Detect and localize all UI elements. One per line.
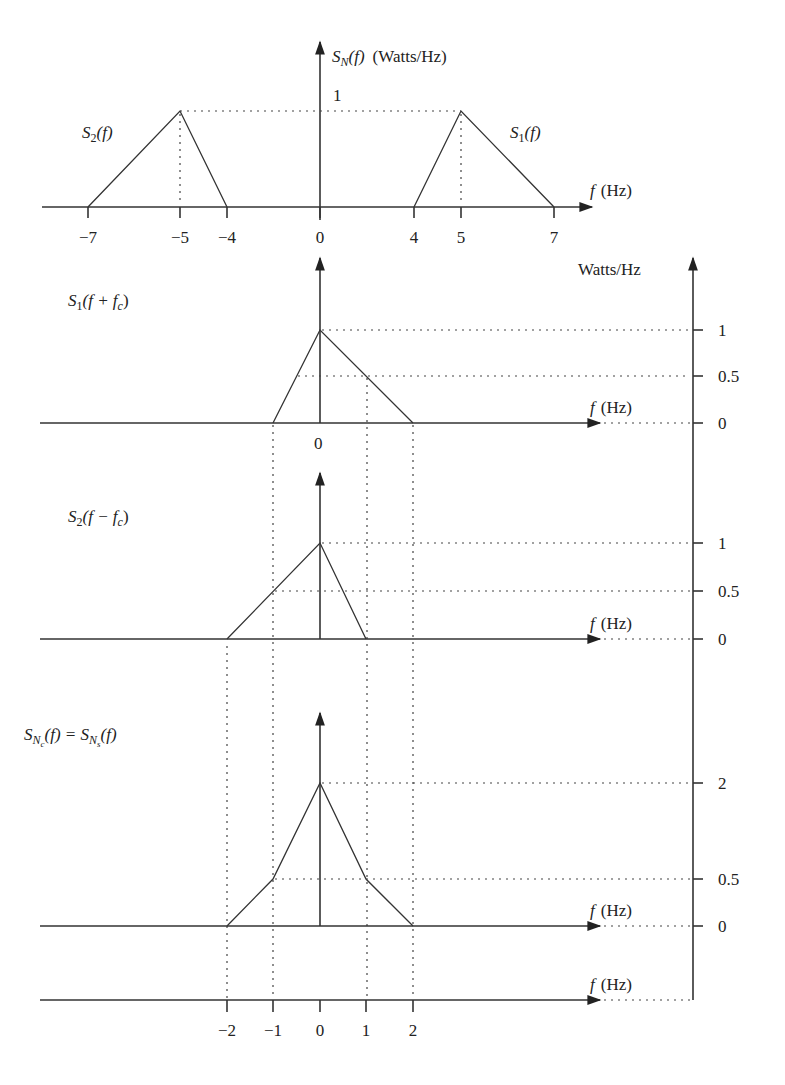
svg-text:5: 5 [457, 228, 466, 247]
plot3-x-axis-label: f(Hz) [590, 614, 632, 633]
plot-snc-sns: 2 0.5 0 SNc(f) = SNs(f) f(Hz) [24, 713, 739, 936]
s2-label: S2(f) [82, 123, 113, 145]
right-y-axis: Watts/Hz [578, 258, 693, 1000]
top-plot: SN(f)(Watts/Hz) 1 S2(f) S1(f) f(Hz) −7 −… [42, 42, 632, 247]
s1-label: S1(f) [510, 123, 541, 145]
plot2-ytick-1: 1 [718, 321, 727, 340]
bottom-axis: −2 −1 0 1 2 f(Hz) [40, 975, 690, 1040]
plot2-origin-label: 0 [314, 434, 323, 453]
s1-shifted-curve [273, 330, 413, 423]
top-x-tick-labels: −7 −5 −4 0 4 5 7 [79, 228, 559, 247]
top-x-ticks [88, 207, 554, 218]
svg-text:−7: −7 [79, 228, 98, 247]
plot3-ytick-0: 0 [718, 630, 727, 649]
plot4-title: SNc(f) = SNs(f) [24, 725, 117, 749]
top-x-axis-label: f(Hz) [590, 181, 632, 200]
bottom-xtick-minus1: −1 [264, 1021, 282, 1040]
bottom-xtick-1: 1 [362, 1021, 371, 1040]
diagram-canvas: SN(f)(Watts/Hz) 1 S2(f) S1(f) f(Hz) −7 −… [0, 0, 785, 1085]
plot2-ytick-0.5: 0.5 [718, 367, 739, 386]
svg-text:4: 4 [410, 228, 419, 247]
svg-text:−5: −5 [171, 228, 189, 247]
svg-text:0: 0 [316, 228, 325, 247]
plot4-x-axis-label: f(Hz) [590, 901, 632, 920]
bottom-xtick-2: 2 [409, 1021, 418, 1040]
plot2-title: S1(f + fc) [68, 291, 129, 313]
bottom-xtick-minus2: −2 [218, 1021, 236, 1040]
plot-s1-shifted: 1 0.5 0 0 S1(f + fc) f(Hz) [40, 258, 739, 453]
plot4-ytick-2: 2 [718, 774, 727, 793]
plot2-ytick-0: 0 [718, 414, 727, 433]
plot3-ytick-0.5: 0.5 [718, 582, 739, 601]
plot4-ytick-0.5: 0.5 [718, 870, 739, 889]
bottom-x-axis-label: f(Hz) [590, 975, 632, 994]
plot3-ytick-1: 1 [718, 534, 727, 553]
svg-text:−4: −4 [218, 228, 237, 247]
top-peak-label: 1 [333, 86, 342, 105]
svg-text:7: 7 [550, 228, 559, 247]
plot3-title: S2(f − fc) [68, 507, 129, 529]
right-axis-units-label: Watts/Hz [578, 260, 641, 279]
plot-s2-shifted: 1 0.5 0 S2(f − fc) f(Hz) [40, 473, 739, 649]
plot2-x-axis-label: f(Hz) [590, 398, 632, 417]
plot4-ytick-0: 0 [718, 917, 727, 936]
bottom-xtick-0: 0 [316, 1021, 325, 1040]
top-y-axis-label: SN(f)(Watts/Hz) [332, 47, 447, 69]
